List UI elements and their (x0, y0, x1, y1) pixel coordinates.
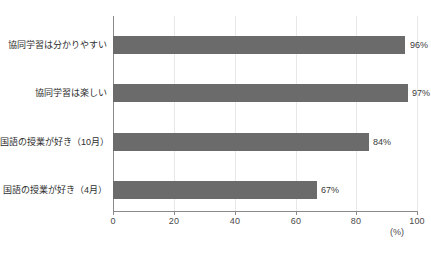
tick-mark-20 (174, 211, 175, 215)
x-axis-unit-label: (%) (377, 227, 417, 237)
x-tick-label-100: 100 (397, 216, 431, 226)
category-label: 協同学習は楽しい (0, 84, 107, 102)
bar-row: 協同学習は分かりやすい 96% (0, 36, 431, 54)
bar (113, 133, 369, 151)
category-label: 国語の授業が好き（10月） (0, 133, 107, 151)
bar-value-label: 96% (410, 36, 428, 54)
x-tick-label-0: 0 (93, 216, 133, 226)
x-tick-label-80: 80 (336, 216, 376, 226)
x-tick-label-40: 40 (215, 216, 255, 226)
bar-value-label: 97% (412, 84, 430, 102)
bar-row: 国語の授業が好き（4月） 67% (0, 181, 431, 199)
bar-chart: 0 20 40 60 80 100 (%) 協同学習は分かりやすい 96% 協同… (0, 0, 431, 256)
x-tick-label-60: 60 (276, 216, 316, 226)
tick-mark-80 (356, 211, 357, 215)
tick-mark-0 (113, 211, 114, 215)
x-axis-line (113, 211, 418, 212)
bar-value-label: 84% (373, 133, 391, 151)
tick-mark-60 (296, 211, 297, 215)
bar (113, 36, 405, 54)
bar-row: 協同学習は楽しい 97% (0, 84, 431, 102)
bar (113, 181, 317, 199)
bar-row: 国語の授業が好き（10月） 84% (0, 133, 431, 151)
bar (113, 84, 408, 102)
category-label: 国語の授業が好き（4月） (0, 181, 107, 199)
x-tick-label-20: 20 (154, 216, 194, 226)
category-label: 協同学習は分かりやすい (0, 36, 107, 54)
bar-value-label: 67% (321, 181, 339, 199)
tick-mark-40 (235, 211, 236, 215)
tick-mark-100 (417, 211, 418, 215)
